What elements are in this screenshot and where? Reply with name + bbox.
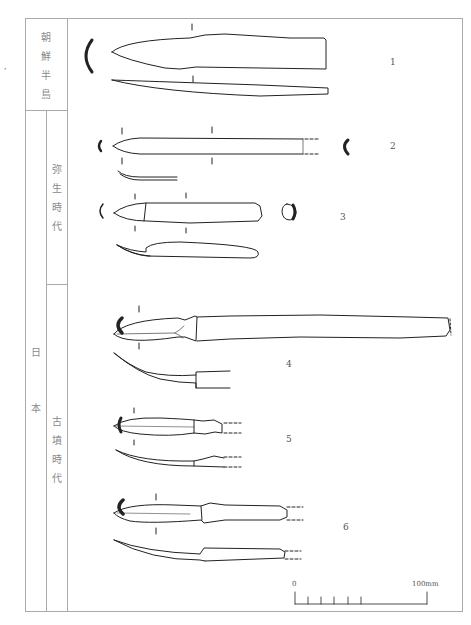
artifact-2-drawing: [99, 127, 348, 180]
scale-end-label: 100mm: [412, 580, 439, 588]
artifact-4-plan: [114, 316, 197, 341]
artifact-3-plan: [114, 203, 262, 223]
artifact-2-section-icon-right: [345, 140, 349, 154]
scale-start-label: 0: [292, 580, 296, 588]
artifact-1-section-icon: [86, 40, 92, 72]
artifact-3-drawing: [100, 193, 296, 258]
artifact-1-drawing: [86, 24, 328, 96]
scale-bar: [295, 592, 427, 604]
artifact-5-drawing: [114, 408, 241, 467]
artifact-1-plan: [112, 34, 326, 69]
artifact-2-profile: [118, 171, 177, 180]
artifact-3-section-icon-left: [100, 204, 103, 218]
artifact-4-profile: [114, 353, 230, 388]
artifact-5-profile: [116, 450, 224, 467]
artifact-4-socket: [197, 315, 450, 341]
artifact-2-section-icon-left: [99, 141, 101, 151]
artifact-6-section-icon: [119, 500, 123, 514]
artifact-6-drawing: [114, 494, 303, 561]
artifact-2-plan: [113, 138, 303, 154]
artifact-4-drawing: [114, 306, 451, 388]
artifact-3-profile: [117, 242, 258, 258]
artifact-4-section-icon: [118, 318, 122, 333]
artifact-6-profile: [114, 540, 285, 561]
artifact-drawings: [0, 0, 471, 625]
artifact-1-profile: [112, 80, 328, 96]
